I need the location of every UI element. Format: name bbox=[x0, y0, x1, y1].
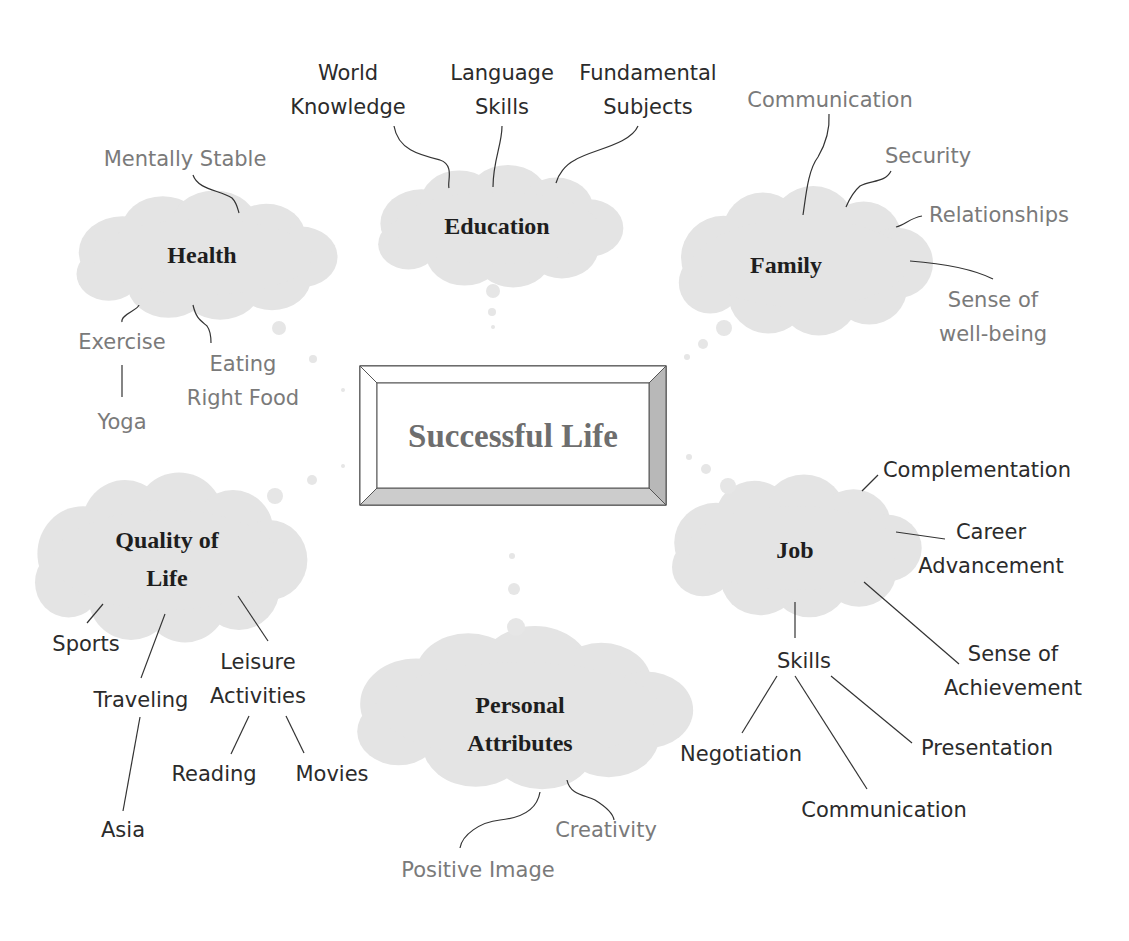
qol-child-sports: Sports bbox=[52, 627, 119, 661]
node-family-title: Family bbox=[750, 246, 822, 284]
education-child-fundamental-subjects: Fundamental Subjects bbox=[579, 56, 716, 124]
label-line: Sense of bbox=[944, 637, 1082, 671]
education-child-world-knowledge: World Knowledge bbox=[290, 56, 405, 124]
family-child-communication: Communication bbox=[747, 83, 913, 117]
label-line: well-being bbox=[939, 317, 1047, 351]
health-child-eating-right-food: Eating Right Food bbox=[187, 347, 299, 415]
title-line: Life bbox=[115, 559, 218, 597]
family-child-relationships: Relationships bbox=[929, 198, 1069, 232]
pa-child-positive-image: Positive Image bbox=[401, 853, 554, 887]
label-line: Skills bbox=[450, 90, 554, 124]
label-line: Sense of bbox=[939, 283, 1047, 317]
label-line: Knowledge bbox=[290, 90, 405, 124]
qol-child-traveling: Traveling bbox=[94, 683, 189, 717]
job-child-complementation: Complementation bbox=[883, 453, 1071, 487]
title-line: Personal bbox=[467, 686, 572, 724]
health-child-mentally-stable: Mentally Stable bbox=[104, 142, 267, 176]
qol-child-reading: Reading bbox=[171, 757, 256, 791]
label-line: Leisure bbox=[210, 645, 306, 679]
mind-map-canvas: Successful Life Education World Knowledg… bbox=[0, 0, 1129, 941]
family-child-security: Security bbox=[885, 139, 971, 173]
skills-child-presentation: Presentation bbox=[921, 731, 1053, 765]
job-child-sense-of-achievement: Sense of Achievement bbox=[944, 637, 1082, 705]
family-child-sense-of-well-being: Sense of well-being bbox=[939, 283, 1047, 351]
job-child-skills: Skills bbox=[777, 644, 831, 678]
label-line: Subjects bbox=[579, 90, 716, 124]
label-line: Career bbox=[918, 515, 1063, 549]
education-child-language-skills: Language Skills bbox=[450, 56, 554, 124]
node-health-title: Health bbox=[167, 236, 236, 274]
label-line: Language bbox=[450, 56, 554, 90]
label-line: Eating bbox=[187, 347, 299, 381]
job-child-career-advancement: Career Advancement bbox=[918, 515, 1063, 583]
pa-child-creativity: Creativity bbox=[555, 813, 657, 847]
label-line: World bbox=[290, 56, 405, 90]
label-line: Fundamental bbox=[579, 56, 716, 90]
skills-child-communication: Communication bbox=[801, 793, 967, 827]
skills-child-negotiation: Negotiation bbox=[680, 737, 802, 771]
node-education-title: Education bbox=[444, 207, 549, 245]
label-line: Right Food bbox=[187, 381, 299, 415]
qol-child-asia: Asia bbox=[101, 813, 145, 847]
qol-child-leisure-activities: Leisure Activities bbox=[210, 645, 306, 713]
label-line: Achievement bbox=[944, 671, 1082, 705]
qol-child-movies: Movies bbox=[295, 757, 368, 791]
label-line: Advancement bbox=[918, 549, 1063, 583]
node-personal-attributes-title: Personal Attributes bbox=[467, 686, 572, 762]
title-line: Attributes bbox=[467, 724, 572, 762]
node-job-title: Job bbox=[776, 531, 813, 569]
health-child-yoga: Yoga bbox=[97, 405, 146, 439]
health-child-exercise: Exercise bbox=[78, 325, 165, 359]
title-line: Quality of bbox=[115, 521, 218, 559]
label-line: Activities bbox=[210, 679, 306, 713]
node-quality-of-life-title: Quality of Life bbox=[115, 521, 218, 597]
center-title: Successful Life bbox=[408, 418, 618, 455]
